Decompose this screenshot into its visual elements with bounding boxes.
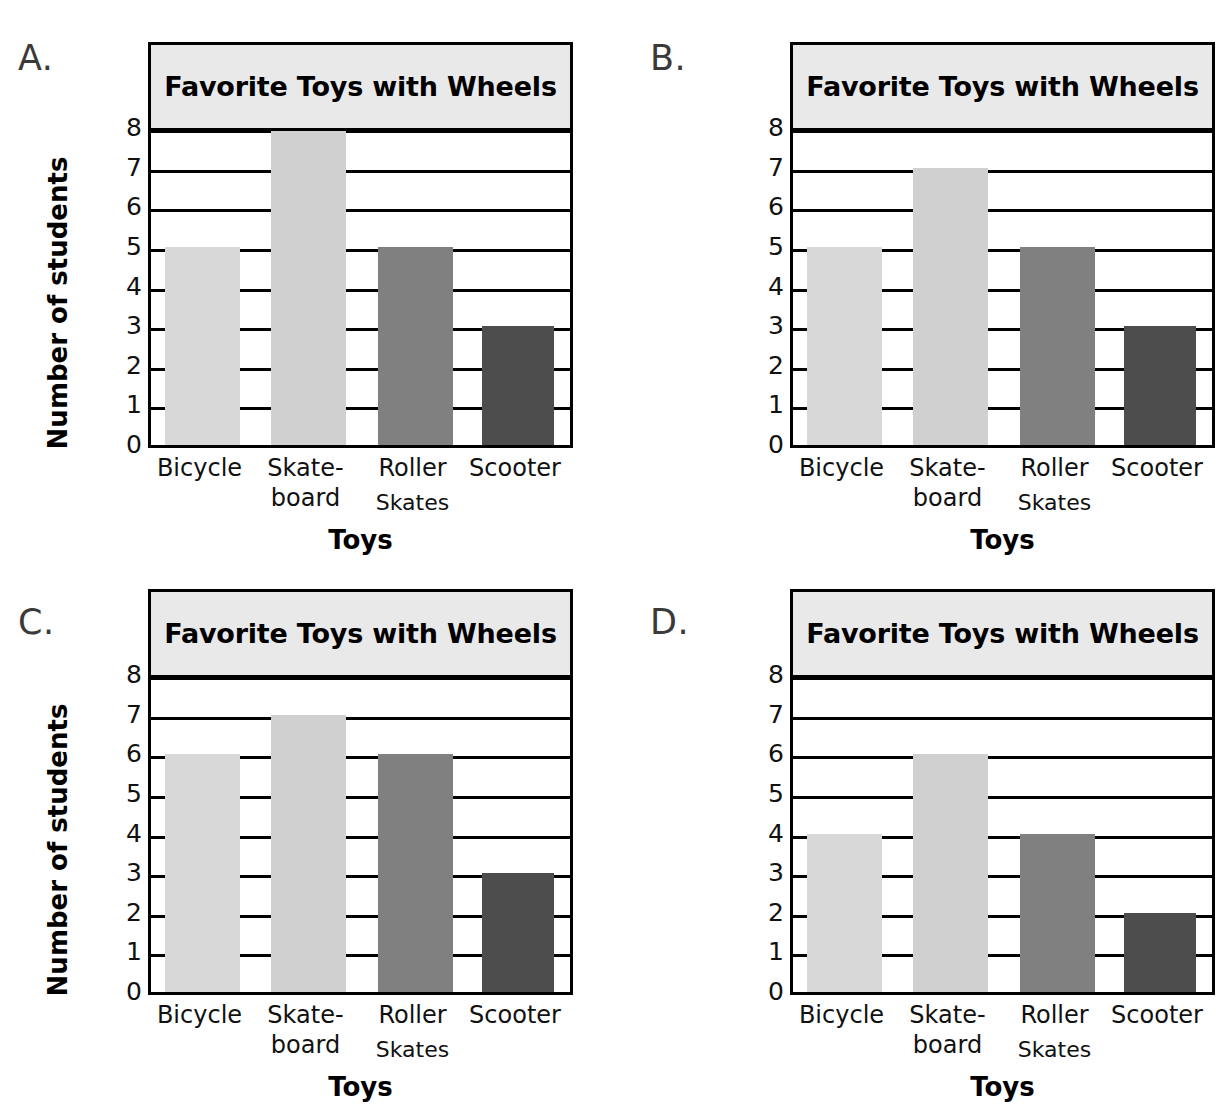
y-tick-label: 2 — [108, 900, 142, 925]
x-tick-label-line1: Skate- — [909, 454, 985, 482]
x-tick-label-line1: Roller — [1020, 1001, 1088, 1029]
x-axis-tick-labels: BicycleSkate-boardRollerSkatesScooter — [790, 453, 1215, 523]
x-tick-label: RollerSkates — [363, 453, 462, 513]
bar-skate-board — [271, 715, 346, 992]
bar-roller-skates — [1020, 834, 1095, 993]
bar-bicycle — [165, 247, 240, 445]
y-tick-label: 0 — [108, 432, 142, 457]
y-tick-label: 0 — [750, 432, 784, 457]
bar-skate-board — [913, 168, 988, 445]
x-tick-label: Skate-board — [898, 1000, 997, 1060]
y-tick-label: 7 — [750, 702, 784, 727]
x-tick-label: Bicycle — [150, 1000, 249, 1030]
y-tick-label: 8 — [750, 115, 784, 140]
x-tick-label-line2: board — [256, 483, 355, 513]
bar-roller-skates — [378, 754, 453, 992]
bars-group — [151, 678, 570, 992]
bar-skate-board — [271, 131, 346, 445]
x-tick-label-line2: board — [898, 1030, 997, 1060]
x-tick-label-line2: Skates — [1005, 488, 1104, 518]
chart-frame: Favorite Toys with Wheels — [148, 589, 573, 995]
bars-group — [793, 678, 1212, 992]
bar-skate-board — [913, 754, 988, 992]
panel-letter: A. — [18, 41, 53, 76]
y-tick-label: 5 — [108, 234, 142, 259]
y-axis-tick-labels: 876543210 — [750, 42, 784, 448]
chart-title: Favorite Toys with Wheels — [806, 618, 1199, 649]
x-tick-label-line2: Skates — [363, 488, 462, 518]
chart-panel-d[interactable]: D.Number of students876543210Favorite To… — [608, 560, 1216, 1107]
x-tick-label-line1: Roller — [1020, 454, 1088, 482]
x-tick-label: Skate-board — [256, 453, 355, 513]
x-axis-title: Toys — [790, 525, 1215, 555]
x-axis-title: Toys — [148, 525, 573, 555]
chart-panel-c[interactable]: C.Number of students876543210Favorite To… — [0, 560, 608, 1107]
y-axis-tick-labels: 876543210 — [108, 589, 142, 995]
x-tick-label-line1: Bicycle — [799, 1001, 884, 1029]
x-tick-label: Bicycle — [792, 1000, 891, 1030]
y-tick-label: 2 — [108, 353, 142, 378]
y-tick-label: 2 — [750, 353, 784, 378]
y-tick-label: 3 — [750, 860, 784, 885]
x-tick-label: Bicycle — [792, 453, 891, 483]
bar-scooter — [1124, 326, 1196, 445]
y-axis-title: Number of students — [44, 700, 72, 1000]
y-tick-label: 5 — [750, 234, 784, 259]
x-tick-label-line1: Bicycle — [157, 454, 242, 482]
panel-letter: D. — [650, 605, 689, 640]
x-tick-label: Scooter — [467, 1000, 563, 1030]
x-tick-label: RollerSkates — [1005, 1000, 1104, 1060]
y-tick-label: 0 — [750, 979, 784, 1004]
x-tick-label: RollerSkates — [1005, 453, 1104, 513]
chart-title: Favorite Toys with Wheels — [164, 71, 557, 102]
chart-title: Favorite Toys with Wheels — [806, 71, 1199, 102]
chart-panel-a[interactable]: A.Number of students876543210Favorite To… — [0, 13, 608, 560]
x-tick-label-line1: Scooter — [1111, 1001, 1203, 1029]
y-tick-label: 4 — [108, 274, 142, 299]
x-axis-tick-labels: BicycleSkate-boardRollerSkatesScooter — [790, 1000, 1215, 1070]
y-tick-label: 6 — [750, 741, 784, 766]
y-axis-title: Number of students — [44, 153, 72, 453]
x-tick-label: Bicycle — [150, 453, 249, 483]
bar-bicycle — [165, 754, 240, 992]
bar-scooter — [1124, 913, 1196, 992]
y-tick-label: 7 — [750, 155, 784, 180]
chart-title-band: Favorite Toys with Wheels — [151, 592, 570, 678]
chart-title: Favorite Toys with Wheels — [164, 618, 557, 649]
x-tick-label-line1: Bicycle — [157, 1001, 242, 1029]
plot-area — [151, 678, 570, 992]
x-tick-label-line1: Skate- — [909, 1001, 985, 1029]
y-axis-tick-labels: 876543210 — [108, 42, 142, 448]
y-axis-tick-labels: 876543210 — [750, 589, 784, 995]
x-tick-label-line1: Scooter — [1111, 454, 1203, 482]
x-tick-label: Scooter — [1109, 1000, 1205, 1030]
x-tick-label-line1: Scooter — [469, 1001, 561, 1029]
bar-roller-skates — [1020, 247, 1095, 445]
chart-panel-b[interactable]: B.Number of students876543210Favorite To… — [608, 13, 1216, 560]
bar-bicycle — [807, 247, 882, 445]
y-tick-label: 3 — [750, 313, 784, 338]
x-tick-label: Skate-board — [256, 1000, 355, 1060]
panel-letter: C. — [18, 605, 55, 640]
y-tick-label: 7 — [108, 702, 142, 727]
x-tick-label-line2: board — [256, 1030, 355, 1060]
y-tick-label: 0 — [108, 979, 142, 1004]
plot-area — [793, 678, 1212, 992]
plot-area — [793, 131, 1212, 445]
chart-title-band: Favorite Toys with Wheels — [151, 45, 570, 131]
y-tick-label: 4 — [108, 821, 142, 846]
x-tick-label-line1: Roller — [378, 1001, 446, 1029]
bars-group — [793, 131, 1212, 445]
y-tick-label: 1 — [108, 392, 142, 417]
x-axis-tick-labels: BicycleSkate-boardRollerSkatesScooter — [148, 1000, 573, 1070]
bar-scooter — [482, 326, 554, 445]
bar-scooter — [482, 873, 554, 992]
y-tick-label: 8 — [108, 115, 142, 140]
x-tick-label-line2: Skates — [363, 1035, 462, 1065]
x-tick-label-line1: Skate- — [267, 454, 343, 482]
bar-roller-skates — [378, 247, 453, 445]
chart-title-band: Favorite Toys with Wheels — [793, 592, 1212, 678]
panel-letter: B. — [650, 41, 686, 76]
y-tick-label: 6 — [750, 194, 784, 219]
y-tick-label: 3 — [108, 860, 142, 885]
